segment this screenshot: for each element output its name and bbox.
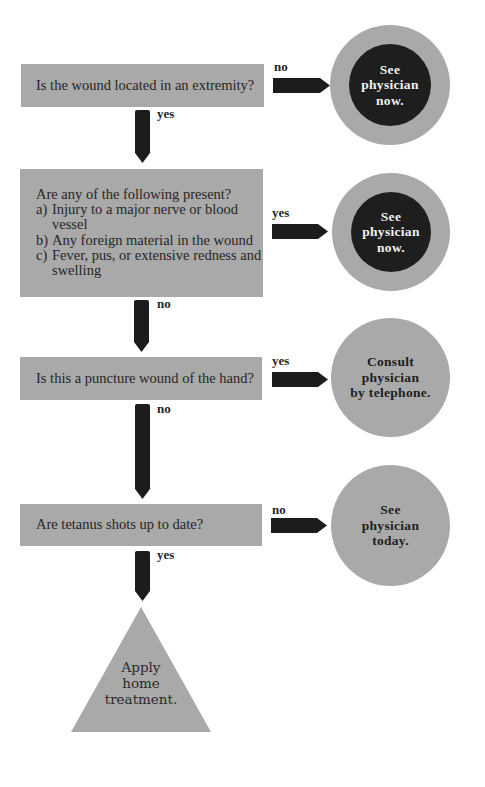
outcome-text: Apply home treatment.: [71, 659, 211, 707]
side-label-no: no: [274, 59, 288, 75]
outcome-line: See: [362, 502, 419, 518]
arrow-down-icon: [134, 300, 149, 352]
list-item: a) Injury to a major nerve or blood vess…: [36, 202, 262, 232]
outcome-line: physician: [362, 224, 419, 240]
outcome-see-physician-today: See physician today.: [331, 465, 450, 586]
outcome-text: See physician today.: [362, 502, 419, 549]
urgent-inner-circle: See physician now.: [351, 192, 431, 272]
question-box-tetanus: Are tetanus shots up to date?: [20, 504, 262, 546]
urgent-inner-circle: See physician now.: [349, 44, 431, 126]
list-marker: b): [36, 233, 52, 248]
outcome-line: physician: [361, 77, 418, 93]
arrow-right-icon: [272, 372, 328, 387]
list-marker: c): [36, 248, 52, 278]
side-label-no: no: [272, 502, 286, 518]
side-label-yes: yes: [272, 205, 289, 221]
arrow-down-icon: [135, 404, 150, 499]
outcome-line: now.: [362, 240, 419, 256]
outcome-line: today.: [362, 533, 419, 549]
outcome-line: treatment.: [71, 691, 211, 707]
outcome-line: physician: [362, 518, 419, 534]
arrow-down-icon: [135, 551, 150, 601]
outcome-text: Consult physician by telephone.: [350, 354, 430, 401]
question-text: Are any of the following present? a) Inj…: [36, 187, 262, 278]
outcome-line: physician: [350, 370, 430, 386]
list-item: c) Fever, pus, or extensive redness and …: [36, 248, 262, 278]
outcome-line: See: [361, 62, 418, 78]
outcome-line: Consult: [350, 354, 430, 370]
outcome-consult-by-telephone: Consult physician by telephone.: [331, 318, 450, 437]
question-text: Is the wound located in an extremity?: [36, 78, 254, 93]
outcome-line: See: [362, 209, 419, 225]
arrow-right-icon: [271, 518, 327, 533]
outcome-see-physician-now-2: See physician now.: [332, 173, 450, 291]
down-label-no: no: [157, 296, 171, 312]
down-label-no: no: [157, 401, 171, 417]
question-title: Are any of the following present?: [36, 187, 262, 202]
list-text: Fever, pus, or extensive redness and swe…: [52, 248, 262, 278]
outcome-line: by telephone.: [350, 385, 430, 401]
outcome-text: See physician now.: [361, 62, 418, 109]
question-box-extremity: Is the wound located in an extremity?: [21, 64, 264, 107]
question-text: Is this a puncture wound of the hand?: [36, 371, 254, 386]
down-label-yes: yes: [157, 106, 174, 122]
outcome-line: Apply: [71, 659, 211, 675]
arrow-right-icon: [272, 224, 328, 239]
arrow-down-icon: [135, 110, 150, 163]
outcome-line: home: [71, 675, 211, 691]
list-marker: a): [36, 202, 52, 232]
question-text: Are tetanus shots up to date?: [36, 517, 203, 532]
arrow-right-icon: [273, 78, 330, 93]
outcome-see-physician-now-1: See physician now.: [330, 25, 450, 145]
side-label-yes: yes: [272, 353, 289, 369]
outcome-text: See physician now.: [362, 209, 419, 256]
list-text: Injury to a major nerve or blood vessel: [52, 202, 262, 232]
list-item: b) Any foreign material in the wound: [36, 233, 262, 248]
list-text: Any foreign material in the wound: [52, 233, 262, 248]
down-label-yes: yes: [157, 547, 174, 563]
outcome-line: now.: [361, 93, 418, 109]
question-box-puncture: Is this a puncture wound of the hand?: [20, 357, 262, 400]
question-box-symptoms: Are any of the following present? a) Inj…: [20, 169, 263, 297]
